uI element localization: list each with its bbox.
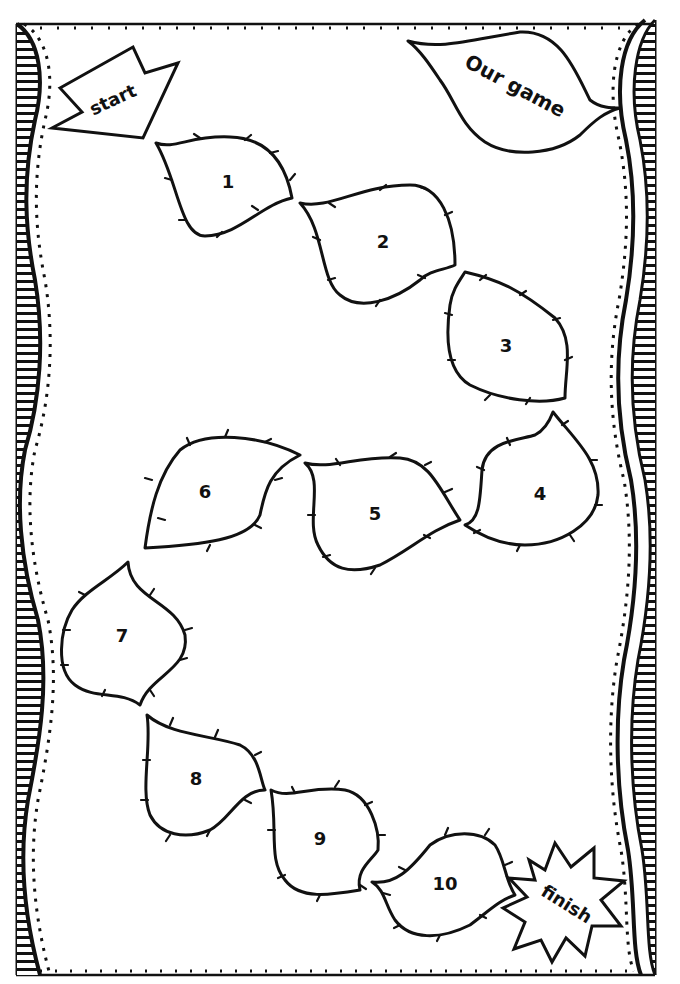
space-number: 1	[222, 171, 235, 192]
space-number: 10	[432, 873, 457, 894]
space-8[interactable]: 8	[141, 715, 265, 841]
space-number: 4	[534, 483, 547, 504]
space-6[interactable]: 6	[145, 430, 300, 551]
start-arrow[interactable]: start	[52, 47, 178, 138]
right-decorative-border	[611, 20, 655, 975]
space-4[interactable]: 4	[465, 412, 602, 551]
space-7[interactable]: 7	[61, 562, 192, 705]
game-board: start Our game 1 2 3 4 5 6 7	[0, 0, 680, 984]
space-number: 9	[314, 828, 327, 849]
finish-burst[interactable]: finish	[503, 843, 624, 962]
space-number: 3	[500, 335, 513, 356]
space-number: 5	[369, 503, 382, 524]
space-10[interactable]: 10	[372, 828, 515, 941]
space-number: 7	[116, 625, 129, 646]
space-9[interactable]: 9	[268, 781, 385, 901]
title-leaf: Our game	[408, 32, 620, 152]
space-number: 6	[199, 481, 212, 502]
left-decorative-border	[17, 24, 57, 975]
space-1[interactable]: 1	[156, 134, 295, 237]
space-number: 8	[190, 768, 203, 789]
space-3[interactable]: 3	[445, 272, 572, 404]
space-2[interactable]: 2	[300, 185, 455, 306]
space-number: 2	[377, 231, 390, 252]
space-5[interactable]: 5	[305, 453, 460, 574]
